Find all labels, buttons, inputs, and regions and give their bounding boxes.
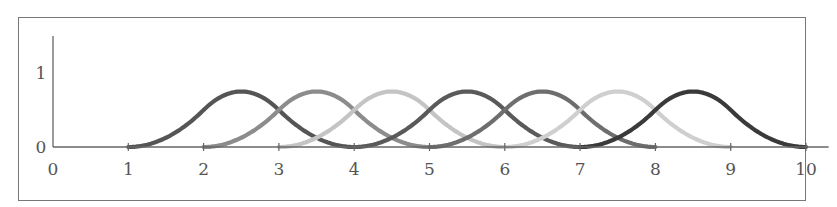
- x-tick-label-6: 6: [499, 159, 510, 179]
- tick-labels-group: 01234567891001: [36, 63, 817, 179]
- bspline-basis-chart: 01234567891001: [0, 0, 837, 207]
- x-tick-label-9: 9: [725, 159, 736, 179]
- x-tick-label-2: 2: [198, 159, 209, 179]
- x-tick-label-4: 4: [349, 159, 360, 179]
- y-tick-label-1: 1: [36, 63, 47, 83]
- x-tick-label-5: 5: [424, 159, 435, 179]
- x-tick-label-10: 10: [795, 159, 817, 179]
- x-tick-label-7: 7: [575, 159, 586, 179]
- y-tick-label-0: 0: [36, 137, 47, 157]
- x-tick-label-0: 0: [48, 159, 59, 179]
- x-tick-label-1: 1: [123, 159, 134, 179]
- x-tick-label-8: 8: [650, 159, 661, 179]
- x-tick-label-3: 3: [273, 159, 284, 179]
- curves-group: [128, 92, 806, 148]
